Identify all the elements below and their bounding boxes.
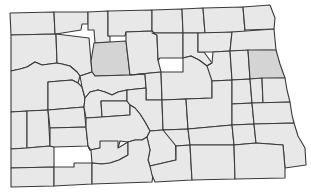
county-steele [250,78,263,103]
county-cavalier [203,7,245,33]
county-griggs [232,79,252,104]
county-golden-valley [11,111,27,149]
county-hettinger [50,127,88,147]
county-dunn [48,80,85,110]
county-billings [27,110,50,148]
county-mchenry [126,31,161,75]
county-walsh [230,29,276,51]
county-grand-forks [248,50,285,79]
county-renville [88,11,110,43]
county-eddy [207,51,232,81]
county-slope [11,146,54,168]
county-nelson [230,50,250,80]
county-ransom [232,124,256,145]
county-divide [10,12,55,35]
county-sargent [234,143,285,179]
county-kidder [162,99,188,130]
county-burke [54,12,88,34]
county-towner [182,8,205,33]
county-oliver [101,101,130,117]
county-barnes [232,103,254,125]
north-dakota-county-map [0,0,311,192]
county-dickey [190,145,235,180]
county-ward [91,41,130,76]
county-stark [48,107,86,128]
county-lamoure [188,125,234,145]
county-ramsey [198,32,232,52]
county-rolette [152,9,183,33]
counties [10,5,306,187]
county-cass [252,102,294,124]
county-pembina [243,5,275,30]
county-traill [262,78,290,103]
county-bowman [11,167,54,187]
county-adams [54,163,92,186]
